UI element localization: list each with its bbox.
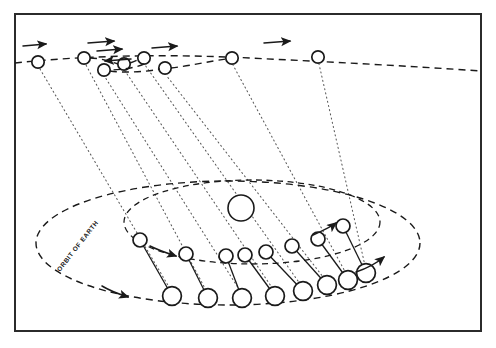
apparent-sky-positions-group (32, 51, 324, 76)
apparent-position-marker (226, 52, 238, 64)
sight-line-8 (319, 64, 366, 270)
sight-lines-group (40, 64, 366, 294)
sky-arrow-right-2 (88, 41, 114, 43)
mars-positions-group (133, 219, 350, 263)
sky-arrow-right-3 (97, 49, 122, 51)
figure-page: ORBIT OF EARTH (0, 0, 496, 348)
apparent-position-marker (159, 62, 171, 74)
sky-arrow-right-5 (264, 41, 290, 43)
loop-segment-forward-3 (171, 59, 226, 68)
retrograde-motion-diagram: ORBIT OF EARTH (0, 0, 496, 348)
earth-position-marker (199, 289, 218, 308)
orbit-of-earth-label: ORBIT OF EARTH (55, 219, 99, 273)
apparent-position-marker (98, 64, 110, 76)
earth-position-marker (294, 282, 313, 301)
sight-line-1 (40, 69, 172, 292)
earth-position-marker (266, 287, 285, 306)
mars-position-marker (336, 219, 350, 233)
mars-position-marker (179, 247, 193, 261)
mars-position-marker (133, 233, 147, 247)
mars-position-marker (285, 239, 299, 253)
apparent-position-marker (32, 56, 44, 68)
earth-position-marker (357, 264, 376, 283)
mars-orbit-direction-arrow-left (150, 246, 176, 256)
mars-position-marker (259, 245, 273, 259)
earth-position-marker (318, 276, 337, 295)
mars-position-marker (311, 232, 325, 246)
sky-direction-arrows-group (23, 41, 290, 61)
orbits-group (36, 180, 420, 305)
earth-position-marker (233, 289, 252, 308)
apparent-position-marker (312, 51, 324, 63)
sun-circle (228, 195, 254, 221)
apparent-position-marker (78, 52, 90, 64)
earth-orbit-direction-arrow-left (102, 286, 128, 297)
apparent-position-marker (138, 52, 150, 64)
orbit-of-earth-ellipse (36, 181, 420, 305)
sky-arrow-right-1 (23, 44, 46, 46)
earth-position-marker (339, 271, 358, 290)
earth-position-marker (163, 287, 182, 306)
mars-position-marker (238, 248, 252, 262)
sky-arrow-right-4 (152, 46, 177, 48)
mars-orbit-direction-arrow-right (313, 223, 336, 235)
mars-position-marker (219, 249, 233, 263)
